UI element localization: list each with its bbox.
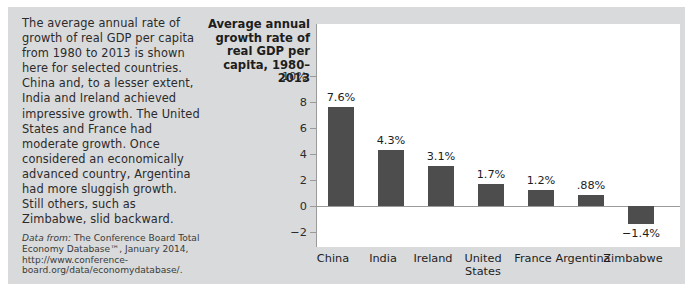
y-tick-label: 0 (300, 200, 307, 213)
bar (528, 190, 554, 206)
bar (578, 195, 604, 206)
bar-value-label: 7.6% (306, 91, 376, 104)
y-tick-mark (310, 128, 317, 129)
caption-source: Data from: The Conference Board Total Ec… (22, 233, 200, 275)
y-tick-label: 2 (300, 173, 307, 186)
y-tick-label: 4 (300, 147, 307, 160)
zero-baseline (316, 206, 680, 207)
y-tick-mark (310, 154, 317, 155)
y-tick-label: 10% (282, 69, 307, 82)
bar (328, 107, 354, 206)
bar-value-label: 4.3% (356, 134, 426, 147)
y-tick-mark (310, 76, 317, 77)
caption-text: The average annual rate of growth of rea… (22, 16, 200, 227)
y-tick-label: −2 (290, 226, 307, 239)
bar-value-label: .88% (556, 179, 626, 192)
bar-value-label: 3.1% (406, 150, 476, 163)
x-axis-category-line: Zimbabwe (598, 253, 668, 266)
bar (478, 184, 504, 206)
y-axis-line (316, 24, 317, 247)
caption-block: The average annual rate of growth of rea… (22, 16, 200, 276)
y-tick-label: 6 (300, 121, 307, 134)
y-tick-mark (310, 232, 317, 233)
figure-container: The average annual rate of growth of rea… (0, 0, 693, 291)
bar-value-label: −1.4% (606, 227, 676, 240)
y-tick-mark (310, 206, 317, 207)
figure-panel: The average annual rate of growth of rea… (8, 7, 685, 284)
bar (428, 166, 454, 206)
x-axis-category-label: Zimbabwe (598, 253, 668, 266)
bar (628, 206, 654, 224)
plot-area: 10%86420−2 7.6%4.3%3.1%1.7%1.2%.88%−1.4% (316, 24, 680, 247)
bar (378, 150, 404, 206)
source-lead-label: Data from: (22, 233, 71, 243)
y-tick-mark (310, 180, 317, 181)
x-axis-category-line: States (448, 266, 518, 279)
